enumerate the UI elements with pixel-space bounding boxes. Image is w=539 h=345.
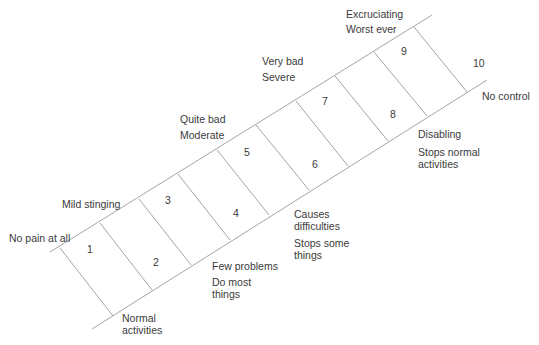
- label-no-control: No control: [482, 90, 530, 103]
- step-number-2: 2: [153, 256, 159, 268]
- label-disabling: Disabling: [418, 128, 461, 141]
- ladder-divider: [178, 174, 230, 240]
- label-normal-activities: activities: [122, 324, 162, 337]
- step-number-3: 3: [165, 194, 171, 206]
- step-number-1: 1: [87, 243, 93, 255]
- step-number-9: 9: [401, 45, 407, 57]
- label-moderate: Moderate: [180, 129, 224, 142]
- step-number-4: 4: [233, 207, 239, 219]
- label-severe: Severe: [262, 71, 295, 84]
- ladder-divider: [217, 150, 269, 215]
- label-quite-bad: Quite bad: [180, 113, 226, 126]
- step-number-6: 6: [312, 158, 318, 170]
- label-stops-some-things: things: [294, 249, 322, 262]
- ladder-graphic: [0, 0, 539, 345]
- label-causes-difficulties: difficulties: [294, 220, 340, 233]
- ladder-divider: [374, 52, 427, 116]
- ladder-divider: [60, 248, 113, 316]
- label-stops-normal-activities: activities: [418, 158, 458, 171]
- label-worst-ever: Worst ever: [346, 23, 397, 36]
- step-number-10: 10: [473, 57, 485, 69]
- label-very-bad: Very bad: [262, 55, 303, 68]
- ladder-divider: [100, 223, 152, 290]
- ladder-divider: [296, 101, 348, 166]
- label-do-most-things: things: [212, 288, 240, 301]
- step-number-5: 5: [244, 146, 250, 158]
- ladder-divider: [256, 125, 309, 190]
- ladder-divider: [139, 199, 191, 265]
- label-mild-stinging: Mild stinging: [62, 198, 120, 211]
- label-excruciating: Excruciating: [346, 8, 403, 21]
- step-number-7: 7: [322, 95, 328, 107]
- ladder-top-rail: [50, 15, 432, 252]
- label-few-problems: Few problems: [212, 260, 278, 273]
- ladder-divider: [335, 76, 388, 141]
- ladder-bottom-rail: [92, 80, 487, 329]
- ladder-divider: [414, 27, 467, 92]
- step-number-8: 8: [390, 108, 396, 120]
- label-no-pain: No pain at all: [9, 232, 70, 245]
